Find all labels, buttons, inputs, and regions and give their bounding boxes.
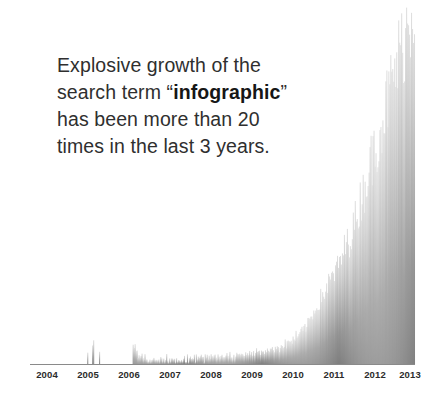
- chart-bar: [226, 353, 227, 364]
- chart-bar: [288, 341, 289, 365]
- chart-bar: [280, 348, 281, 364]
- chart-bar: [165, 360, 166, 365]
- chart-bar: [153, 358, 154, 365]
- chart-bar: [248, 355, 249, 364]
- chart-bar: [307, 318, 308, 364]
- chart-bar: [193, 359, 194, 364]
- chart-bar: [243, 356, 244, 365]
- chart-bar: [387, 127, 388, 364]
- chart-bar: [253, 351, 254, 365]
- chart-bar: [99, 352, 100, 365]
- chart-bar: [305, 332, 306, 365]
- chart-bar: [398, 20, 399, 364]
- chart-bar: [331, 273, 332, 365]
- chart-bar: [303, 326, 304, 365]
- chart-bar: [369, 173, 370, 365]
- chart-bar: [247, 353, 248, 364]
- chart-bar: [346, 242, 347, 364]
- chart-bar: [209, 356, 210, 365]
- chart-bar: [197, 359, 198, 364]
- chart-bar: [281, 345, 282, 364]
- chart-bar: [320, 289, 321, 365]
- chart-bar: [216, 358, 217, 365]
- chart-bar: [191, 359, 192, 364]
- chart-bar: [220, 359, 221, 365]
- chart-bar: [270, 349, 271, 365]
- chart-bar: [142, 354, 143, 365]
- chart-bar: [149, 360, 150, 365]
- chart-bar: [144, 360, 145, 364]
- chart-bar: [232, 360, 233, 365]
- chart-bar: [364, 213, 365, 365]
- chart-bar: [161, 358, 162, 364]
- chart-bar: [238, 354, 239, 364]
- chart-bar: [332, 271, 333, 364]
- chart-bar: [260, 355, 261, 365]
- chart-bar: [330, 280, 331, 365]
- chart-bar: [300, 332, 301, 364]
- chart-bar: [304, 324, 305, 365]
- chart-bar: [404, 81, 405, 364]
- chart-bar: [325, 292, 326, 365]
- chart-bar: [314, 313, 315, 364]
- caption-line-4: times in the last 3 years.: [57, 133, 317, 160]
- chart-bar: [158, 359, 159, 364]
- chart-bar: [298, 336, 299, 364]
- chart-bar: [214, 355, 215, 364]
- chart-bar: [337, 256, 338, 365]
- chart-bar: [194, 355, 195, 365]
- chart-bar: [163, 359, 164, 365]
- chart-bar: [261, 351, 262, 365]
- x-tick-2006: 2006: [118, 369, 140, 380]
- chart-bar: [344, 235, 345, 365]
- chart-bar: [293, 337, 294, 365]
- chart-bar: [139, 355, 140, 364]
- chart-bar: [278, 347, 279, 364]
- chart-bar: [335, 265, 336, 364]
- chart-bar: [385, 81, 386, 364]
- chart-bar: [187, 354, 188, 364]
- chart-bar: [390, 55, 391, 364]
- chart-bar: [397, 88, 398, 364]
- chart-bar: [373, 136, 374, 364]
- chart-bar: [283, 348, 284, 364]
- chart-bar: [234, 360, 235, 365]
- x-tick-2011: 2011: [323, 369, 344, 380]
- chart-bar: [363, 175, 364, 365]
- chart-bar: [343, 255, 344, 364]
- chart-bar: [252, 356, 253, 365]
- chart-bar: [211, 354, 212, 364]
- chart-bar: [410, 57, 411, 364]
- caption-line-3: has been more than 20: [57, 106, 317, 133]
- chart-bar: [299, 334, 300, 365]
- chart-bar: [375, 167, 376, 365]
- chart-bar: [377, 172, 378, 365]
- chart-bar: [376, 153, 377, 364]
- chart-bar: [403, 83, 404, 364]
- chart-bar: [183, 359, 184, 365]
- chart-bar: [285, 339, 286, 364]
- chart-bar: [289, 341, 290, 364]
- chart-bar: [273, 350, 274, 364]
- chart-bar: [167, 361, 168, 365]
- chart-bar: [361, 221, 362, 365]
- caption-line-2-post: ”: [280, 81, 287, 103]
- chart-bar: [202, 357, 203, 364]
- chart-bar: [395, 87, 396, 365]
- x-tick-2012: 2012: [364, 369, 386, 380]
- chart-bar: [145, 354, 146, 364]
- chart-bar: [382, 120, 383, 364]
- chart-bar: [400, 45, 401, 364]
- chart-bar: [155, 360, 156, 364]
- chart-bar: [203, 357, 204, 365]
- chart-bar: [269, 352, 270, 365]
- chart-bar: [240, 355, 241, 364]
- chart-bar: [302, 331, 303, 364]
- chart-bar: [401, 13, 402, 364]
- chart-bar: [184, 356, 185, 365]
- chart-bar: [141, 356, 142, 365]
- chart-bar: [245, 352, 246, 364]
- chart-bar: [156, 360, 157, 365]
- chart-bar: [333, 273, 334, 364]
- chart-bar: [389, 84, 390, 364]
